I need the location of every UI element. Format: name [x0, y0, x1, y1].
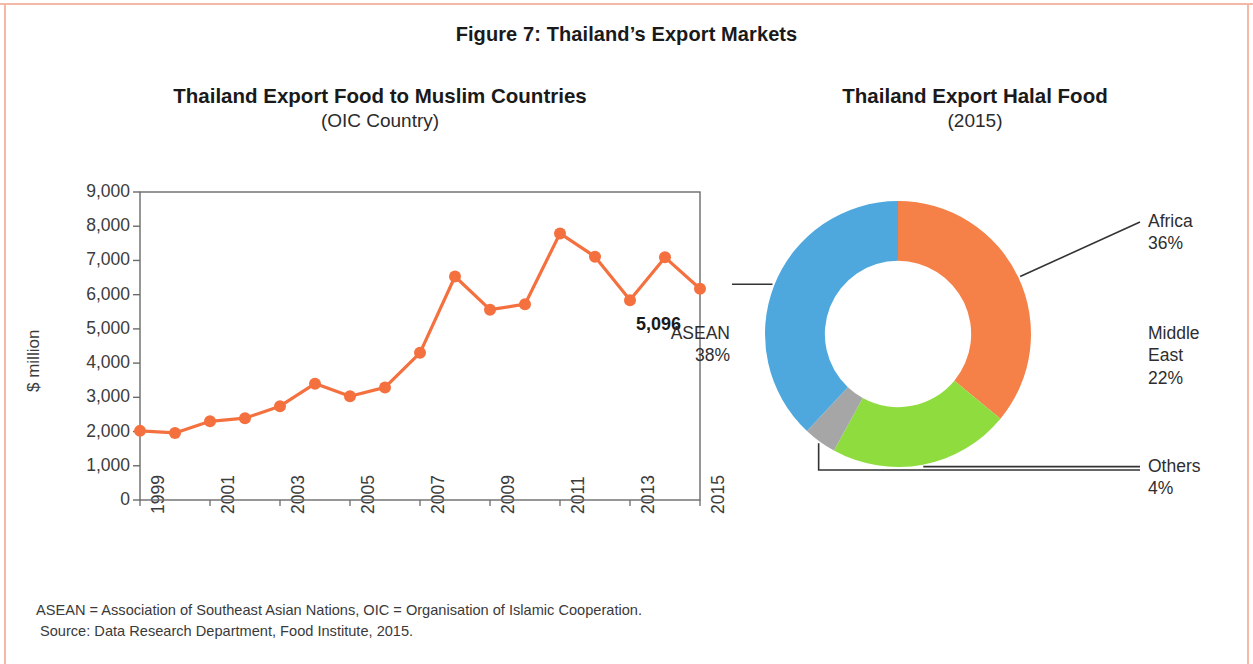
line-chart: $ million 9,0008,0007,0006,0005,0004,000…: [30, 160, 720, 580]
line-chart-plot: [30, 160, 720, 580]
donut-label-africa-text: Africa: [1148, 211, 1193, 231]
figure-notes: ASEAN = Association of Southeast Asian N…: [36, 600, 1136, 642]
donut-label-africa-pct: 36%: [1148, 233, 1183, 253]
right-chart-subtitle: (2015): [740, 110, 1210, 132]
donut-callout-middle-east: MiddleEast22%: [1148, 322, 1200, 389]
page-border-left: [4, 3, 6, 664]
donut-label-others-text: Others: [1148, 456, 1201, 476]
page-border-right: [1247, 3, 1249, 664]
left-chart-title: Thailand Export Food to Muslim Countries: [60, 84, 700, 108]
note-source: Source: Data Research Department, Food I…: [36, 621, 1136, 642]
figure-page: Figure 7: Thailand’s Export Markets Thai…: [0, 0, 1253, 664]
page-border-top: [0, 3, 1253, 5]
donut-callout-others: Others4%: [1148, 455, 1201, 500]
donut-label-asean-pct: 38%: [695, 345, 730, 365]
donut-callout-africa: Africa36%: [1148, 210, 1193, 255]
donut-label-middle-east-pct: 22%: [1148, 368, 1183, 388]
donut-label-others-pct: 4%: [1148, 478, 1173, 498]
donut-chart: Africa36%MiddleEast22%Others4%ASEAN38%: [720, 170, 1240, 560]
leader-line-africa: [1020, 222, 1140, 277]
donut-label-middle-east-text: MiddleEast: [1148, 323, 1200, 365]
donut-callout-asean: ASEAN38%: [625, 322, 730, 367]
figure-title: Figure 7: Thailand’s Export Markets: [0, 23, 1253, 46]
left-chart-subtitle: (OIC Country): [60, 110, 700, 132]
donut-label-asean-text: ASEAN: [671, 323, 730, 343]
right-chart-title: Thailand Export Halal Food: [740, 84, 1210, 108]
note-abbreviations: ASEAN = Association of Southeast Asian N…: [36, 600, 1136, 621]
